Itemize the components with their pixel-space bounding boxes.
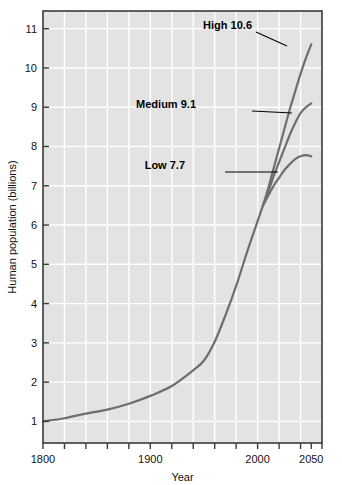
x-axis-title: Year	[171, 471, 194, 483]
high-annotation-label: High 10.6	[203, 19, 252, 31]
x-tick-label: 1900	[138, 453, 162, 465]
y-tick-label: 11	[26, 23, 37, 35]
x-tick-label: 1800	[31, 453, 55, 465]
y-axis-title: Human population (billions)	[6, 160, 18, 293]
y-tick-label: 9	[31, 101, 37, 113]
y-tick-label: 6	[31, 219, 37, 231]
population-projection-chart: 12345678910111800190020002050YearHuman p…	[0, 0, 342, 485]
y-tick-label: 1	[31, 415, 37, 427]
y-tick-label: 7	[31, 180, 37, 192]
chart-canvas: 12345678910111800190020002050YearHuman p…	[0, 0, 342, 485]
y-tick-label: 3	[31, 337, 37, 349]
x-tick-label: 2050	[299, 453, 323, 465]
y-tick-label: 4	[31, 298, 37, 310]
y-tick-label: 2	[31, 376, 37, 388]
x-tick-label: 2000	[245, 453, 269, 465]
y-tick-label: 5	[31, 258, 37, 270]
low-annotation-label: Low 7.7	[145, 159, 185, 171]
x-axis: 1800190020002050	[31, 443, 324, 465]
medium-annotation-label: Medium 9.1	[136, 98, 196, 110]
y-tick-label: 10	[25, 62, 37, 74]
y-tick-label: 8	[31, 140, 37, 152]
